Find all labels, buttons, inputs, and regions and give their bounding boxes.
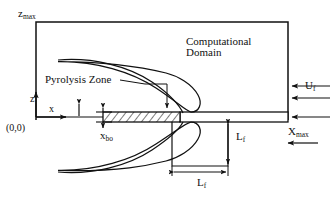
z-axis-label: z xyxy=(30,94,34,104)
pyrolysis-zone-block xyxy=(103,112,180,122)
Lf-horizontal-dimension xyxy=(172,166,228,176)
diagram-vector-layer xyxy=(0,0,334,203)
plate-body xyxy=(180,112,288,122)
origin-label: (0,0) xyxy=(6,123,25,133)
flame-length-horizontal-label: Lf xyxy=(197,177,206,188)
lower-flame-sheet xyxy=(58,122,200,173)
z-max-label: zmax xyxy=(18,8,36,19)
diagram-canvas: zmax (0,0) z x Pyrolysis Zone xbo Comput… xyxy=(0,0,334,203)
x-max-label: Xmax xyxy=(288,126,309,137)
inflow-velocity-label: Uf xyxy=(305,80,315,91)
x-axis-label: x xyxy=(49,104,54,114)
pyrolysis-zone-leader xyxy=(120,80,167,108)
computational-domain-label: Computational Domain xyxy=(186,36,251,58)
flame-length-vertical-label: Lf xyxy=(236,131,245,142)
x-bo-label: xbo xyxy=(100,130,113,141)
pyrolysis-zone-label: Pyrolysis Zone xyxy=(45,74,111,85)
